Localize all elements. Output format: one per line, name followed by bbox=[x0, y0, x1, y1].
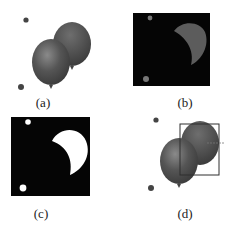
panel-d-image bbox=[148, 117, 225, 191]
dot-bottom bbox=[18, 84, 24, 90]
panel-b-image bbox=[133, 13, 210, 86]
front-balloon bbox=[32, 39, 70, 85]
figure-canvas bbox=[0, 0, 235, 234]
dot-top bbox=[23, 17, 28, 22]
front-balloon bbox=[160, 138, 198, 184]
panel-c-image bbox=[11, 117, 90, 196]
panel-b-label: (b) bbox=[165, 95, 205, 111]
panel-d-label: (d) bbox=[165, 206, 205, 222]
panel-a-image bbox=[18, 17, 91, 90]
panel-c-label: (c) bbox=[21, 206, 61, 222]
panel-a-label: (a) bbox=[23, 95, 63, 111]
